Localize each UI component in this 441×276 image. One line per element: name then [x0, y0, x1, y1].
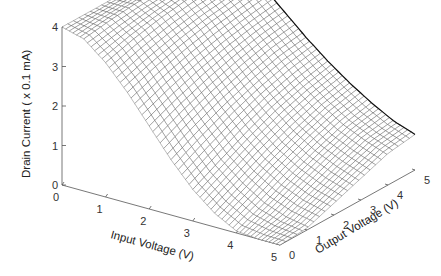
surface-plot: 01234012345012345 Drain Current ( x 0.1 … — [0, 0, 441, 276]
x-tick-label: 3 — [184, 227, 190, 239]
z-tick-label: 4 — [52, 21, 58, 33]
x-axis-label: Input Voltage (V) — [109, 228, 195, 262]
x-tick-label: 5 — [271, 251, 277, 263]
x-tick-label: 4 — [227, 239, 233, 251]
x-tick — [106, 194, 108, 197]
z-tick-label: 2 — [52, 100, 58, 112]
z-tick-label: 3 — [52, 61, 58, 73]
y-tick-label: 5 — [424, 174, 430, 186]
x-tick — [193, 218, 195, 221]
surface-mesh — [62, 0, 415, 245]
y-tick-label: 0 — [289, 249, 295, 261]
x-tick-label: 0 — [53, 191, 59, 203]
z-tick-label: 1 — [52, 140, 58, 152]
z-tick-label: 0 — [52, 179, 58, 191]
z-axis-label: Drain Current ( x 0.1 mA) — [20, 49, 32, 178]
x-tick-label: 2 — [140, 215, 146, 227]
y-tick-label: 4 — [397, 189, 403, 201]
y-tick — [358, 199, 361, 200]
y-tick — [412, 169, 415, 170]
y-tick — [385, 184, 388, 185]
x-tick-label: 1 — [97, 203, 103, 215]
y-tick — [331, 214, 334, 215]
x-tick — [149, 206, 151, 209]
